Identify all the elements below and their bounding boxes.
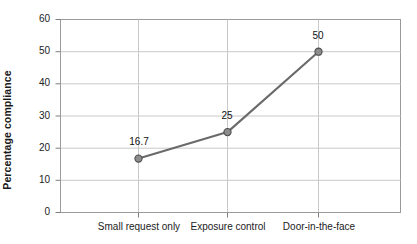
data-point-marker xyxy=(224,129,231,136)
data-point-marker xyxy=(135,155,142,162)
chart-figure: Percentage compliance xyxy=(0,0,417,244)
data-point-marker xyxy=(315,48,322,55)
y-tick-label-20: 20 xyxy=(28,143,50,153)
y-tick-label-10: 10 xyxy=(28,175,50,185)
x-axis-ticks xyxy=(139,213,319,218)
y-tick-label-60: 60 xyxy=(28,14,50,24)
data-label-25: 25 xyxy=(210,111,244,121)
x-tick-label-door-in-the-face: Door-in-the-face xyxy=(262,221,376,232)
y-axis-ticks xyxy=(56,20,61,213)
plot-area: 60 50 40 30 20 10 0 Small request only E… xyxy=(0,0,417,244)
y-tick-label-50: 50 xyxy=(28,46,50,56)
y-tick-label-0: 0 xyxy=(28,207,50,217)
data-label-50: 50 xyxy=(301,31,335,41)
y-tick-label-30: 30 xyxy=(28,111,50,121)
y-tick-label-40: 40 xyxy=(28,78,50,88)
data-label-16-7: 16.7 xyxy=(118,137,160,147)
chart-svg xyxy=(0,0,417,244)
